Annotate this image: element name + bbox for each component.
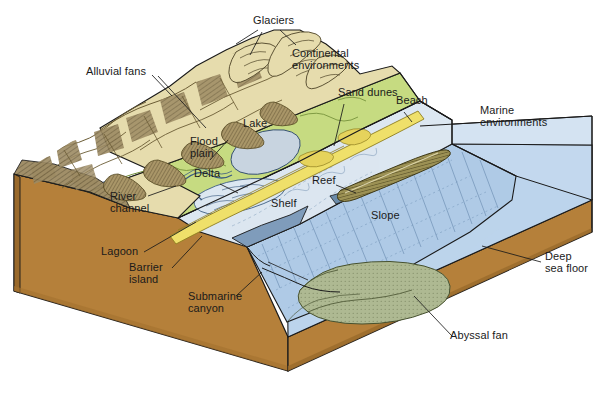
label-river-channel: River channel: [110, 190, 149, 214]
label-lagoon: Lagoon: [101, 245, 138, 257]
label-abyssal-fan: Abyssal fan: [450, 329, 508, 341]
label-continental-environments: Continental environments: [292, 47, 359, 71]
label-lake: Lake: [243, 117, 267, 129]
label-glaciers: Glaciers: [253, 14, 294, 26]
label-submarine-canyon: Submarine canyon: [188, 290, 242, 314]
label-marine-environments: Marine environments: [480, 104, 547, 128]
label-slope: Slope: [371, 209, 400, 221]
label-barrier-island: Barrier island: [129, 261, 163, 285]
label-delta: Delta: [194, 167, 220, 179]
label-shelf: Shelf: [271, 197, 297, 209]
label-beach: Beach: [396, 94, 428, 106]
label-alluvial-fans: Alluvial fans: [86, 65, 146, 77]
diagram-canvas: Glaciers Alluvial fans Continental envir…: [0, 0, 603, 395]
label-reef: Reef: [312, 174, 336, 186]
label-sand-dunes: Sand dunes: [338, 86, 398, 98]
label-flood-plain: Flood plain: [190, 135, 218, 159]
label-deep-sea-floor: Deep sea floor: [545, 250, 588, 274]
